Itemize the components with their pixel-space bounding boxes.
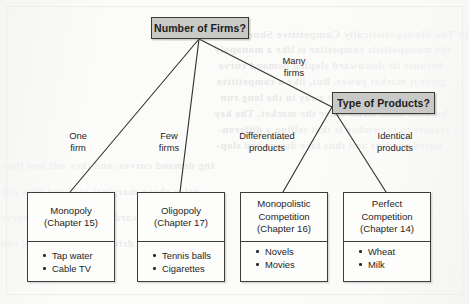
bleed-through-line: gives it market power. But, like a compe… <box>216 76 445 87</box>
leaf-perfect-competition-title-line1: Perfect <box>372 198 402 210</box>
leaf-monopoly-title: Monopoly <box>50 205 92 217</box>
leaf-monopolistic-competition-chapter: (Chapter 16) <box>257 223 311 235</box>
edge-label-identical-products: Identical products <box>358 130 432 154</box>
figure-frame-left <box>6 6 7 295</box>
list-item: Wheat <box>368 245 430 258</box>
bleed-through-line: 20 The Monopolistically Competitive Shor… <box>218 28 469 40</box>
leaf-monopoly-chapter: (Chapter 15) <box>44 217 98 229</box>
bleed-through-line: because its downward sloping demand curv… <box>218 60 442 71</box>
leaf-oligopoly-examples: Tennis balls Cigarettes <box>138 242 224 281</box>
leaf-monopoly-examples: Tap water Cable TV <box>28 242 114 281</box>
figure-canvas: 20 The Monopolistically Competitive Shor… <box>0 0 469 304</box>
list-item: Cable TV <box>52 262 114 275</box>
list-item: Movies <box>265 258 327 271</box>
edge-label-few-firms: Few firms <box>148 130 190 154</box>
bleed-through-line: tiated product and thus face downward sl… <box>216 140 442 151</box>
leaf-monopoly-header: Monopoly (Chapter 15) <box>28 193 114 242</box>
figure-frame-bottom <box>6 294 463 295</box>
node-number-of-firms-label: Number of Firms? <box>154 22 246 34</box>
leaf-box-perfect-competition[interactable]: Perfect Competition (Chapter 14) Wheat M… <box>343 192 431 282</box>
leaf-oligopoly-chapter: (Chapter 17) <box>154 217 208 229</box>
leaf-box-monopolistic-competition[interactable]: Monopolistic Competition (Chapter 16) No… <box>240 192 328 282</box>
bleed-through-line: the monopolistic competitor is like a mo… <box>214 44 450 55</box>
list-item: Tennis balls <box>162 249 224 262</box>
edge-label-one-firm: One firm <box>58 130 98 154</box>
list-item: Cigarettes <box>162 262 224 275</box>
leaf-perfect-competition-examples: Wheat Milk <box>344 242 430 281</box>
bleed-through-line: ing demand curves, and they sell and thu… <box>2 160 214 171</box>
leaf-perfect-competition-header: Perfect Competition (Chapter 14) <box>344 193 430 242</box>
bleed-through-line: feature to remember is that selling a di… <box>218 124 449 135</box>
leaf-monopolistic-competition-title-line1: Monopolistic <box>257 198 310 210</box>
leaf-oligopoly-title: Oligopoly <box>161 205 201 217</box>
leaf-box-oligopoly[interactable]: Oligopoly (Chapter 17) Tennis balls Ciga… <box>137 192 225 282</box>
list-item: Tap water <box>52 249 114 262</box>
leaf-monopolistic-competition-header: Monopolistic Competition (Chapter 16) <box>241 193 327 242</box>
leaf-monopolistic-competition-examples: Novels Movies <box>241 242 327 281</box>
list-item: Novels <box>265 245 327 258</box>
leaf-perfect-competition-chapter: (Chapter 14) <box>360 223 414 235</box>
edge-label-differentiated-products: Differentiated products <box>222 130 312 154</box>
figure-frame-top <box>6 6 463 7</box>
node-number-of-firms[interactable]: Number of Firms? <box>151 17 249 39</box>
leaf-monopolistic-competition-title-line2: Competition <box>258 211 309 223</box>
node-type-of-products-label: Type of Products? <box>337 97 430 109</box>
leaf-oligopoly-header: Oligopoly (Chapter 17) <box>138 193 224 242</box>
edge-label-many-firms: Many firms <box>270 55 318 79</box>
node-type-of-products[interactable]: Type of Products? <box>332 92 435 114</box>
leaf-perfect-competition-title-line2: Competition <box>361 211 412 223</box>
leaf-box-monopoly[interactable]: Monopoly (Chapter 15) Tap water Cable TV <box>27 192 115 282</box>
list-item: Milk <box>368 258 430 271</box>
figure-frame-right <box>462 6 463 295</box>
